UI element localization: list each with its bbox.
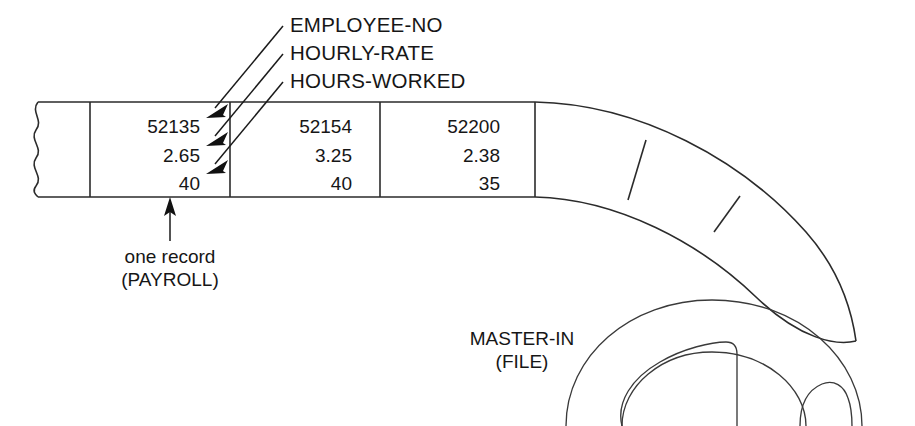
file-caption-line-2: (FILE) [496, 351, 549, 372]
record-cell-2: 52154 3.25 40 [299, 116, 352, 194]
record-2-hourly-rate: 3.25 [315, 145, 352, 166]
record-1-hours-worked: 40 [179, 173, 200, 194]
reel-inner-rim [622, 352, 806, 426]
record-cell-3: 52200 2.38 35 [447, 116, 500, 194]
record-caption-line-2: (PAYROLL) [121, 269, 219, 290]
file-caption-line-1: MASTER-IN [470, 328, 575, 349]
reel-spoke-cutout-right [800, 382, 852, 426]
reel-outer-rim [566, 300, 862, 426]
record-caption-callout: one record (PAYROLL) [121, 197, 219, 290]
tape-reel [566, 300, 862, 426]
tape-record-diagram: 52135 2.65 40 52154 3.25 40 52200 2.38 3… [0, 0, 915, 426]
record-2-hours-worked: 40 [331, 173, 352, 194]
record-2-employee-no: 52154 [299, 116, 352, 137]
record-3-employee-no: 52200 [447, 116, 500, 137]
record-1-employee-no: 52135 [147, 116, 200, 137]
file-caption: MASTER-IN (FILE) [470, 328, 575, 372]
record-separator-6 [714, 196, 740, 232]
record-3-hourly-rate: 2.38 [463, 145, 500, 166]
diagram-canvas: 52135 2.65 40 52154 3.25 40 52200 2.38 3… [0, 0, 915, 426]
tape-top-edge [38, 102, 856, 341]
record-separator-5 [628, 140, 646, 200]
tape-body [34, 102, 856, 342]
record-caption-line-1: one record [125, 246, 216, 267]
record-3-hours-worked: 35 [479, 173, 500, 194]
record-1-hourly-rate: 2.65 [163, 145, 200, 166]
field-label-hourly-rate: HOURLY-RATE [290, 41, 434, 64]
record-cell-1: 52135 2.65 40 [147, 116, 200, 194]
field-label-employee-no: EMPLOYEE-NO [290, 13, 443, 36]
field-label-hours-worked: HOURS-WORKED [290, 69, 466, 92]
tape-torn-edge [34, 102, 38, 197]
